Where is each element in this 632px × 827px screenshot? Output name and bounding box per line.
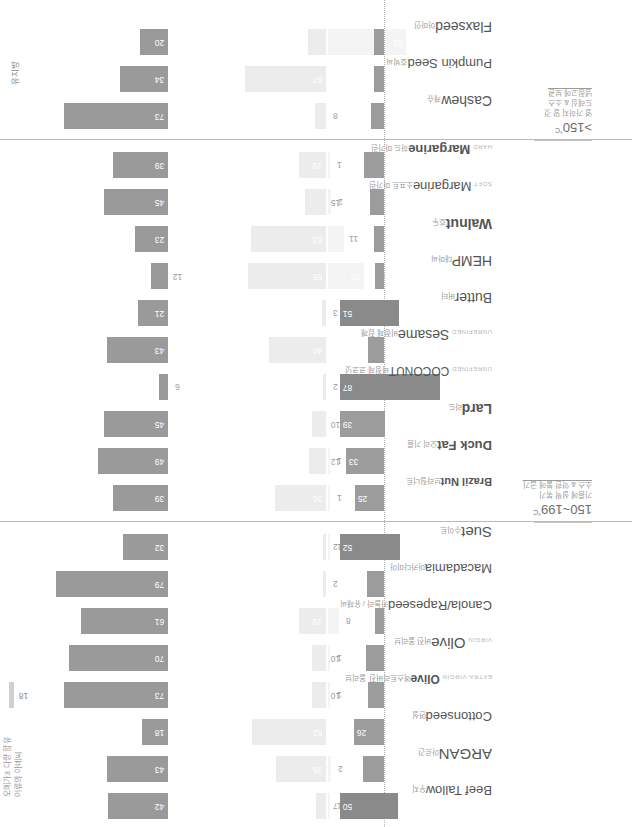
bar: 9 [374, 226, 384, 252]
bar: 8 [315, 103, 326, 129]
bar-value-label: 19 [313, 617, 322, 626]
category-label: Brazil Nut브라질너트 [406, 474, 492, 492]
category-label: Lard라드 [448, 400, 492, 418]
bar-value-label: 11 [374, 112, 383, 121]
category-label-ko: 브라질너트 [406, 476, 441, 485]
bar: 61 [81, 608, 168, 634]
bar-value-label: 52 [343, 543, 352, 552]
category-label-en: Margarine [408, 142, 470, 157]
category-label-ko: 면실 [412, 710, 426, 719]
category-label-ko: 대마씨 [431, 254, 452, 263]
bar-value-label: 53 [313, 235, 322, 244]
bar: 49 [98, 448, 168, 474]
category-label: Canola/Rapeseed카놀라 / 유채씨 [340, 597, 492, 615]
bar: 8 [375, 263, 384, 289]
bar: 11 [371, 103, 384, 129]
bar: 3 [322, 300, 326, 326]
bar: 55 [248, 263, 326, 289]
category-label: EXTRA-VIRGIN Olive엑스트라버진 올리브 [345, 671, 492, 689]
category-label-prefix: SOFT [471, 181, 492, 187]
category-label-ko: 라드 [448, 402, 462, 411]
bar: 79 [56, 571, 168, 597]
usage-line: 냉장고에 보관 [544, 87, 592, 97]
bar-value-label: 14 [371, 691, 380, 700]
bar: 36 [275, 485, 326, 511]
annotated-small-bar-value: 18 [19, 691, 28, 700]
bar-value-label: 79 [155, 580, 164, 589]
bar: 2 [328, 189, 331, 215]
bar-value-label: 52 [313, 728, 322, 737]
category-label: Walnut호두 [432, 215, 492, 233]
category-label: Butter버터 [441, 289, 492, 307]
bar: 40 [269, 337, 326, 363]
bar: 2 [323, 571, 326, 597]
bar-value-label: 17 [367, 161, 376, 170]
category-label: Cashew캐슈 [427, 92, 492, 110]
bar: 73 [64, 103, 168, 129]
category-label: HEMP대마씨 [431, 252, 492, 270]
temperature-section-rule [534, 522, 592, 523]
bar-value-label: 73 [155, 691, 164, 700]
bar: 26 [354, 719, 384, 745]
category-label: SOFT Margarine소프트 마가린 [369, 178, 492, 196]
bar: 1 [328, 485, 330, 511]
category-label-en: Sesame [398, 327, 449, 343]
bar-value-label: 18 [366, 765, 375, 774]
category-label-en: Duck Fat [437, 438, 492, 453]
bar-value-label: 87 [343, 383, 352, 392]
bar: 1 [328, 448, 330, 474]
bar-value-label: 20 [155, 38, 164, 47]
bar-value-label: 21 [155, 309, 164, 318]
category-label-en: Lard [462, 401, 492, 417]
category-label: Pumpkin Seed호박씨 [386, 55, 492, 73]
bar: 53 [251, 226, 326, 252]
bar: 10 [312, 411, 326, 437]
temperature-section-usage: 열 가하지 말 것드레싱 & 소스냉장고에 보관 [544, 87, 592, 117]
bar-value-label: 39 [155, 161, 164, 170]
bar: 33 [346, 448, 384, 474]
bar: 32 [123, 534, 168, 560]
bar: 51 [340, 300, 399, 326]
bar-value-label: 19 [313, 161, 322, 170]
category-label-ko: 호박씨 [386, 57, 407, 66]
bar-value-label: 43 [155, 765, 164, 774]
bar: 39 [113, 485, 168, 511]
category-label-prefix: VIRGIN [465, 637, 492, 643]
category-label-en: COCONUT [389, 364, 450, 378]
category-label-en: Flaxseed [435, 19, 492, 35]
bar: 7 [316, 793, 326, 819]
bar: 1 [328, 534, 330, 560]
bar: 50 [340, 793, 398, 819]
bar: 16 [366, 645, 384, 671]
bar: 2 [328, 756, 331, 782]
bar: 6 [159, 374, 168, 400]
bar: 21 [138, 300, 168, 326]
bar-value-label: 55 [313, 272, 322, 281]
bar: 19 [299, 152, 326, 178]
bar: 13 [308, 29, 326, 55]
bar: 73 [64, 682, 168, 708]
bar: 18 [363, 756, 384, 782]
temperature-section: >150°C열 가하지 말 것드레싱 & 소스냉장고에 보관 [544, 87, 592, 135]
category-label-ko: 오리 기름 [407, 439, 437, 448]
bar-value-label: 70 [155, 654, 164, 663]
category-label-ko: 비정제 코코넛 [345, 365, 389, 374]
category-label-en: Butter [455, 290, 492, 306]
bar: 10 [312, 645, 326, 671]
usage-line: 드레싱 & 소스 [544, 97, 592, 107]
bar-value-label: 73 [155, 112, 164, 121]
category-label-ko: 버터 [441, 291, 455, 300]
category-label-en: Olive [431, 635, 465, 652]
polyunsaturated-bars: 7355210101922361210240355531519857131211… [176, 0, 326, 827]
temperature-range: 150~199°C [523, 502, 592, 517]
category-label-ko: 아르간 [418, 747, 439, 756]
category-label-prefix: UNREFINED [449, 329, 492, 335]
category-label-en: HEMP [452, 253, 492, 269]
polyunsaturated-row: 7355210101922361210240355531519857131211… [176, 0, 326, 827]
temperature-section: 150~199°C기름에 살짝 볶기소스 & 약한 불에 굽기 [523, 479, 592, 517]
infographic-stage: 유지방 오메가3 다량 함유 어류의 아녜씨 42431873706179323… [0, 0, 632, 827]
category-label-en: Cashew [441, 93, 492, 109]
bar: 1 [328, 682, 330, 708]
bar-value-label: 26 [357, 728, 366, 737]
category-label-en: Cottonseed [426, 709, 493, 724]
